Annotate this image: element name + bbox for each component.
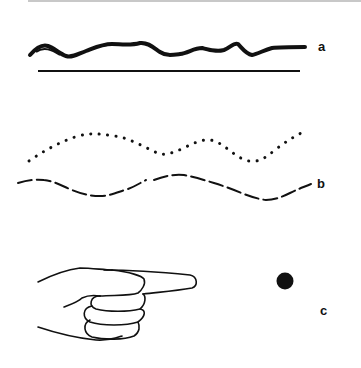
panel-a-wavy-line xyxy=(30,43,305,57)
target-dot xyxy=(277,273,294,290)
pointing-hand-icon xyxy=(38,268,196,340)
panel-label-c: c xyxy=(320,304,327,317)
panel-b-dotted-line xyxy=(29,131,305,161)
panel-label-a: a xyxy=(318,40,325,53)
figure-canvas xyxy=(0,0,361,368)
panel-label-b: b xyxy=(317,177,325,190)
panel-b-dashed-line xyxy=(18,175,311,200)
